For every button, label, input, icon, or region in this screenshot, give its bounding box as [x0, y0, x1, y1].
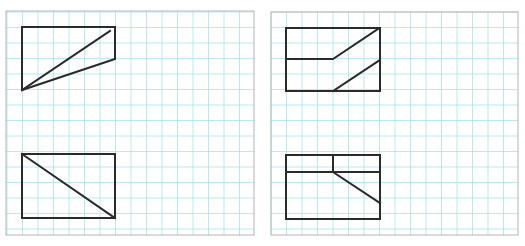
panel-frame [271, 12, 518, 235]
grid-lines [6, 11, 254, 235]
grid-lines [271, 12, 518, 235]
left-bottom-figure [22, 154, 115, 218]
right-panel [271, 12, 518, 235]
left-panel [6, 11, 254, 235]
drawing-canvas [0, 0, 525, 246]
panel-frame [6, 11, 254, 235]
